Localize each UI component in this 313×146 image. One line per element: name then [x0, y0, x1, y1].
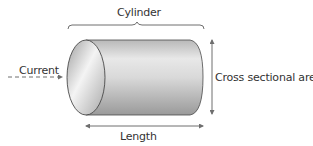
length-label: Length — [120, 131, 157, 142]
cylinder-front-face — [67, 40, 105, 115]
cylinder-brace — [68, 22, 204, 29]
current-label: Current — [19, 65, 59, 76]
cylinder-label: Cylinder — [117, 7, 161, 18]
cross-section-label: Cross sectional area — [215, 72, 313, 83]
